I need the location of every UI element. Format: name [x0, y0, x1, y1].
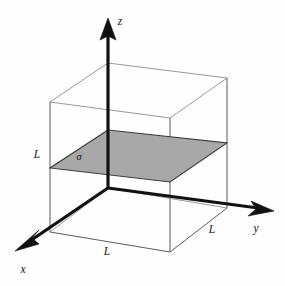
z-axis-label: z	[117, 15, 123, 27]
figure-container: z y x σ L L L	[0, 0, 285, 286]
y-axis-line	[108, 188, 258, 208]
x-axis-label: x	[19, 263, 26, 275]
cube-bottom-front-right-edge	[170, 208, 227, 252]
cube-bottom-edges	[50, 188, 227, 252]
front-width-label: L	[208, 223, 215, 235]
three-dimensional-box-diagram: z y x σ L L L	[0, 0, 285, 286]
x-axis-line	[30, 188, 108, 241]
front-depth-label: L	[103, 245, 110, 257]
surface-charge-density-label: σ	[76, 151, 82, 162]
cube-top-face-edge	[50, 63, 227, 118]
arrow-down-left-icon	[15, 230, 39, 251]
x-axis	[15, 188, 108, 251]
y-axis-label: y	[252, 222, 259, 235]
left-height-label: L	[33, 148, 40, 160]
